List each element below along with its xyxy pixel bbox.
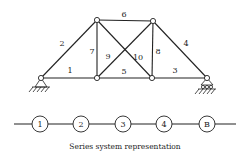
supports: [29, 78, 216, 94]
member-4: [153, 21, 207, 78]
series-element-label: 4: [161, 120, 166, 129]
roller-wheel-icon: [209, 85, 212, 88]
member-label-9: 9: [105, 52, 110, 61]
member-label-3: 3: [172, 66, 177, 75]
series-system: 1234B: [14, 116, 236, 132]
member-label-5: 5: [121, 67, 126, 76]
member-label-10: 10: [133, 53, 143, 62]
member-label-8: 8: [155, 47, 160, 56]
member-8: [152, 21, 153, 78]
ground-hatch: [211, 89, 215, 94]
ground-hatch: [207, 89, 211, 94]
member-label-7: 7: [89, 47, 94, 56]
ground-hatch: [195, 89, 199, 94]
ground-hatch: [45, 87, 49, 92]
ground-hatch: [199, 89, 203, 94]
joint-C: [149, 75, 154, 80]
member-labels: 12345678910: [59, 10, 188, 76]
member-label-4: 4: [183, 39, 188, 48]
joint-D: [204, 75, 209, 80]
roller-wheel-icon: [201, 85, 204, 88]
joint-F: [150, 18, 155, 23]
caption: Series system representation: [69, 142, 180, 151]
truss-diagram: 12345678910 1234B Series system represen…: [0, 0, 249, 159]
joint-E: [94, 17, 99, 22]
joint-B: [94, 75, 99, 80]
joint-A: [38, 75, 43, 80]
ground-hatch: [29, 87, 33, 92]
member-label-2: 2: [59, 39, 64, 48]
ground-hatch: [33, 87, 37, 92]
roller-wheel-icon: [205, 85, 208, 88]
member-6: [97, 20, 153, 21]
series-element-label: 2: [78, 120, 83, 129]
ground-hatch: [41, 87, 45, 92]
series-element-label: 1: [37, 120, 42, 129]
series-element-label: 3: [120, 120, 125, 129]
series-element-label: B: [204, 120, 210, 129]
member-label-6: 6: [121, 10, 126, 19]
ground-hatch: [37, 87, 41, 92]
ground-hatch: [203, 89, 207, 94]
member-label-1: 1: [67, 66, 72, 75]
